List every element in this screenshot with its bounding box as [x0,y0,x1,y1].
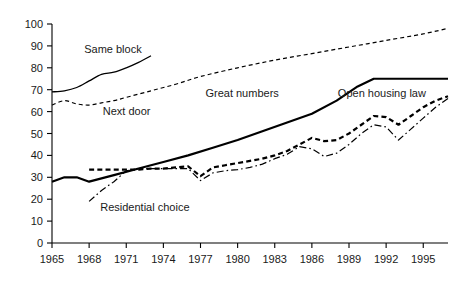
y-tick-label: 90 [31,40,43,52]
y-tick-label: 20 [31,193,43,205]
y-tick-label: 80 [31,62,43,74]
y-axis: 0102030405060708090100 [25,18,52,249]
y-tick-label: 60 [31,106,43,118]
x-tick-label: 1992 [374,253,398,265]
x-tick-label: 1974 [151,253,175,265]
series-label-same-block: Same block [84,43,142,55]
x-tick-label: 1986 [300,253,324,265]
series-label-residential-choice: Residential choice [100,201,189,213]
series-label-next-door: Next door [103,105,151,117]
x-tick-label: 1968 [77,253,101,265]
y-tick-label: 40 [31,149,43,161]
series-labels: Same blockNext doorGreat numbersOpen hou… [84,43,426,213]
y-tick-label: 0 [37,237,43,249]
y-tick-label: 50 [31,128,43,140]
x-axis: 1965196819711974197719801983198619891992… [40,243,448,265]
x-tick-label: 1995 [411,253,435,265]
x-tick-label: 1983 [263,253,287,265]
line-chart: 0102030405060708090100 19651968197119741… [0,0,460,282]
series-label-open-housing-law: Open housing law [338,87,426,99]
x-tick-label: 1965 [40,253,64,265]
x-tick-label: 1971 [114,253,138,265]
series-line-same-block [52,56,151,92]
series-label-great-numbers: Great numbers [205,87,279,99]
x-tick-label: 1977 [188,253,212,265]
y-tick-label: 30 [31,171,43,183]
chart-canvas: 0102030405060708090100 19651968197119741… [0,0,460,282]
y-tick-label: 100 [25,18,43,30]
y-tick-label: 10 [31,215,43,227]
y-tick-label: 70 [31,84,43,96]
x-tick-label: 1989 [337,253,361,265]
x-tick-label: 1980 [225,253,249,265]
